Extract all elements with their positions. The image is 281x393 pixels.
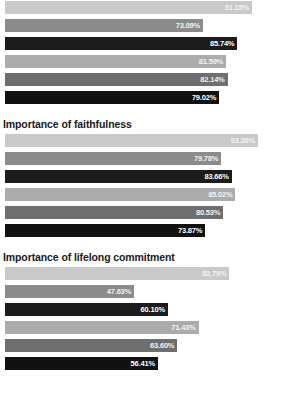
- bar: 85.02%: [5, 188, 235, 201]
- bar: 85.74%: [5, 37, 237, 50]
- bar-row: 56.41%: [5, 357, 281, 370]
- bar-group: 82.79%47.63%60.10%71.43%63.60%56.41%: [0, 267, 281, 370]
- bar: 56.41%: [5, 357, 158, 370]
- bar: 82.79%: [5, 267, 229, 280]
- bar-value-label: 82.79%: [202, 267, 229, 280]
- section-gap: [0, 242, 281, 251]
- section-title: Importance of faithfulness: [0, 118, 281, 134]
- bar-row: 79.02%: [5, 91, 281, 104]
- bar-row: 60.10%: [5, 303, 281, 316]
- bar-row: 47.63%: [5, 285, 281, 298]
- bar-row: 63.60%: [5, 339, 281, 352]
- bar: 93.36%: [5, 134, 258, 147]
- bar-value-label: 56.41%: [131, 357, 158, 370]
- bar-value-label: 83.66%: [204, 170, 231, 183]
- bar: 82.14%: [5, 73, 228, 86]
- bar-row: 85.74%: [5, 37, 281, 50]
- bar-row: 82.79%: [5, 267, 281, 280]
- bar-row: 85.02%: [5, 188, 281, 201]
- bar-value-label: 85.74%: [210, 37, 237, 50]
- bar-value-label: 81.59%: [199, 55, 226, 68]
- bar-group: 93.36%79.78%83.66%85.02%80.53%73.87%: [0, 134, 281, 237]
- bar-value-label: 71.43%: [171, 321, 198, 334]
- chart-section-1: 91.15%73.09%85.74%81.59%82.14%79.02%: [0, 1, 281, 104]
- bar-row: 83.66%: [5, 170, 281, 183]
- bar-row: 91.15%: [5, 1, 281, 14]
- bar-value-label: 60.10%: [141, 303, 168, 316]
- bar: 73.87%: [5, 224, 205, 237]
- bar-value-label: 91.15%: [225, 1, 252, 14]
- panels-container: 91.15%73.09%85.74%81.59%82.14%79.02%Impo…: [0, 1, 281, 370]
- bar: 63.60%: [5, 339, 177, 352]
- bar-value-label: 73.09%: [176, 19, 203, 32]
- section-title: Importance of lifelong commitment: [0, 251, 281, 267]
- bar-value-label: 79.02%: [192, 91, 219, 104]
- bar: 91.15%: [5, 1, 252, 14]
- bar-chart-panel-group: 91.15%73.09%85.74%81.59%82.14%79.02%Impo…: [0, 0, 281, 393]
- bar: 83.66%: [5, 170, 232, 183]
- bar-value-label: 93.36%: [231, 134, 258, 147]
- section-gap: [0, 109, 281, 118]
- bar: 71.43%: [5, 321, 199, 334]
- bar-group: 91.15%73.09%85.74%81.59%82.14%79.02%: [0, 1, 281, 104]
- bar-row: 73.09%: [5, 19, 281, 32]
- bar-row: 80.53%: [5, 206, 281, 219]
- chart-section-2: Importance of faithfulness93.36%79.78%83…: [0, 118, 281, 237]
- bar-value-label: 73.87%: [178, 224, 205, 237]
- bar-row: 81.59%: [5, 55, 281, 68]
- bar-value-label: 79.78%: [194, 152, 221, 165]
- bar-value-label: 63.60%: [150, 339, 177, 352]
- bar-row: 73.87%: [5, 224, 281, 237]
- bar: 73.09%: [5, 19, 203, 32]
- bar-value-label: 47.63%: [107, 285, 134, 298]
- bar: 60.10%: [5, 303, 168, 316]
- bar: 81.59%: [5, 55, 226, 68]
- bar: 80.53%: [5, 206, 223, 219]
- bar-row: 93.36%: [5, 134, 281, 147]
- bar: 79.78%: [5, 152, 221, 165]
- bar: 79.02%: [5, 91, 219, 104]
- bar-row: 71.43%: [5, 321, 281, 334]
- bar-value-label: 85.02%: [208, 188, 235, 201]
- bar: 47.63%: [5, 285, 134, 298]
- chart-section-3: Importance of lifelong commitment82.79%4…: [0, 251, 281, 370]
- bar-value-label: 80.53%: [196, 206, 223, 219]
- bar-row: 79.78%: [5, 152, 281, 165]
- bar-row: 82.14%: [5, 73, 281, 86]
- bar-value-label: 82.14%: [200, 73, 227, 86]
